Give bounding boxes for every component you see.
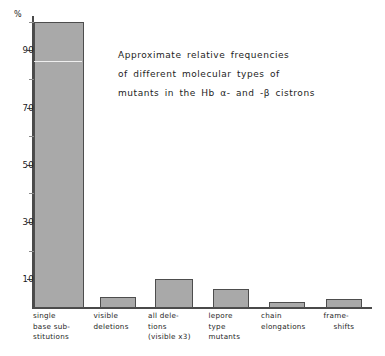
y-tick-label: 70 <box>10 103 34 113</box>
bar <box>100 297 136 308</box>
bar <box>326 299 362 308</box>
bar-column <box>33 16 90 308</box>
annotation-line-1: Approximate relative frequencies <box>118 46 370 65</box>
annotation-line-2: of different molecular types of <box>118 65 370 84</box>
bar <box>213 289 249 308</box>
x-axis-label-line: mutants <box>209 332 266 343</box>
x-axis-label-line: shifts <box>324 322 381 333</box>
x-axis-label-line: single <box>33 311 90 322</box>
x-axis-label: visibledeletions <box>94 311 151 332</box>
y-tick-label: 30 <box>10 217 34 227</box>
x-axis-label-line: base sub- <box>33 322 90 333</box>
x-axis-label-line: all dele- <box>148 311 205 322</box>
x-axis-label-line: type <box>209 322 266 333</box>
x-axis-category-labels: singlebase sub-stitutionsvisibledeletion… <box>33 311 372 356</box>
x-axis-label: leporetypemutants <box>209 311 266 343</box>
y-tick-label: 10 <box>10 274 34 284</box>
y-tick-label: 50 <box>10 160 34 170</box>
x-axis-label-line: lepore <box>209 311 266 322</box>
bar <box>155 279 193 308</box>
bar <box>269 302 305 308</box>
x-axis-label-line: stitutions <box>33 332 90 343</box>
x-axis-label: frame-shifts <box>324 311 381 332</box>
y-axis-unit-label: % <box>14 10 22 19</box>
scan-artifact-line <box>34 61 82 62</box>
x-axis-label: singlebase sub-stitutions <box>33 311 90 343</box>
x-axis-label: all dele-tions(visible x3) <box>148 311 205 343</box>
x-axis-label-line: chain <box>261 311 318 322</box>
x-axis-label-line: (visible x3) <box>148 332 205 343</box>
y-tick-label: 90 <box>10 45 34 55</box>
x-axis-label: chainelongations <box>261 311 318 332</box>
x-axis-label-line: frame- <box>324 311 381 322</box>
bar <box>34 22 84 308</box>
annotation-line-3: mutants in the Hb α- and -β cistrons <box>118 84 370 103</box>
x-axis-label-line: tions <box>148 322 205 333</box>
bar-chart-figure: % 1030507090 Approximate relative freque… <box>0 0 385 356</box>
x-axis-label-line: elongations <box>261 322 318 333</box>
x-axis-label-line: visible <box>94 311 151 322</box>
x-axis-label-line: deletions <box>94 322 151 333</box>
annotation-text: Approximate relative frequencies of diff… <box>118 46 370 103</box>
